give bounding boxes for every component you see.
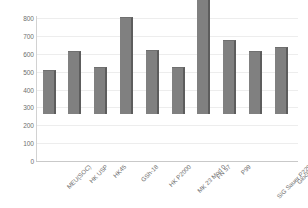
bar-slot [89, 0, 115, 114]
x-axis-tick-label: GSh-18 [139, 163, 159, 183]
y-axis-tick-label: 0 [4, 158, 34, 165]
bar-slot [269, 0, 295, 114]
bar-slot [218, 0, 244, 114]
bar [223, 40, 236, 114]
y-axis-tick-labels: 0100200300400500600700800 [0, 0, 34, 208]
bar [94, 67, 107, 114]
x-axis-category-labels: MEU(SOC)HK USPHK45GSh-18HK P2000MK 23 Mo… [37, 163, 295, 208]
bar [249, 51, 262, 114]
x-axis-line [36, 161, 298, 162]
bar-slot [37, 0, 63, 114]
bar [120, 17, 133, 114]
y-axis-tick-label: 800 [4, 15, 34, 22]
y-axis-tick-label: 100 [4, 140, 34, 147]
bar [146, 50, 159, 114]
bar-slot [192, 0, 218, 114]
bar-slot [243, 0, 269, 114]
x-axis-tick-label: HK P2000 [167, 163, 192, 188]
y-axis-tick-label: 700 [4, 32, 34, 39]
y-axis-tick-label: 200 [4, 122, 34, 129]
bar-slot [166, 0, 192, 114]
bar [68, 51, 81, 114]
x-axis-tick-label: MEU(SOC) [65, 163, 92, 190]
bar-slot [63, 0, 89, 114]
y-axis-tick-label: 400 [4, 86, 34, 93]
y-axis-tick-label: 300 [4, 104, 34, 111]
bar [43, 70, 56, 114]
bar [197, 0, 210, 114]
bar [275, 47, 288, 114]
bar-series [37, 0, 295, 161]
x-axis-tick-label: HK45 [112, 163, 128, 179]
bar-slot [114, 0, 140, 114]
x-axis-tick-label: P99 [239, 163, 252, 176]
bar-slot [140, 0, 166, 114]
y-axis-tick-label: 500 [4, 68, 34, 75]
y-axis-tick-label: 600 [4, 50, 34, 57]
bar-chart: 0100200300400500600700800 MEU(SOC)HK USP… [0, 0, 308, 208]
bar [172, 67, 185, 114]
